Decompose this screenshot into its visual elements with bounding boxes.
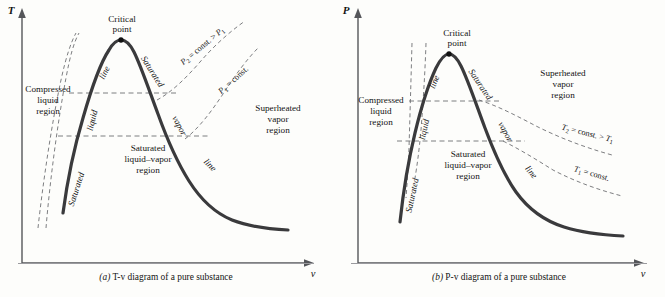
superheated-vapor-region-line2: vapor — [268, 114, 289, 124]
caption-b-index: (b) — [432, 272, 443, 282]
sat-vapor-line-word2-pv: vapor — [496, 120, 515, 144]
compressed-liquid-region-line1-pv: Compressed — [358, 95, 404, 105]
isobar-p2-curve-tv — [157, 21, 245, 100]
panel-pv-diagram: Critical point Compressed liquid region … — [333, 0, 665, 297]
isobar-p2-label-tv: P2 = const. > P1 — [178, 25, 227, 68]
y-axis-label-pv: P — [343, 4, 350, 16]
caption-a-index: (a) — [99, 272, 110, 282]
compressed-liquid-region-line2: liquid — [37, 95, 59, 105]
saturated-liquid-vapor-region-line1: Saturated — [131, 143, 166, 153]
sat-vapor-line-word1-pv: Saturated — [467, 67, 495, 102]
superheated-vapor-region-line1-pv: Superheated — [540, 68, 586, 78]
tv-diagram-svg: Critical point Compressed liquid region … — [0, 0, 332, 297]
compressed-liquid-region-line2-pv: liquid — [370, 106, 392, 116]
superheated-vapor-region-line3: region — [266, 125, 290, 135]
compressed-liquid-region-line3-pv: region — [369, 117, 393, 127]
pv-diagram-svg: Critical point Compressed liquid region … — [333, 0, 665, 297]
y-axis-arrowhead-pv — [354, 8, 362, 18]
panel-tv-diagram: Critical point Compressed liquid region … — [0, 0, 332, 297]
saturated-liquid-vapor-region-line3-pv: region — [456, 171, 480, 181]
caption-a: (a) T-v diagram of a pure substance — [0, 272, 332, 282]
saturation-dome-tv — [63, 40, 288, 230]
isotherm-t1-text: = const. — [580, 166, 610, 183]
saturated-liquid-vapor-region-line2: liquid–vapor — [125, 154, 172, 164]
superheated-vapor-region-line1: Superheated — [255, 103, 301, 113]
compressed-liquid-region-line3: region — [36, 106, 60, 116]
critical-point-label-line2-pv: point — [448, 38, 467, 48]
saturated-liquid-vapor-region-line2-pv: liquid–vapor — [445, 160, 492, 170]
caption-a-text: T-v diagram of a pure substance — [112, 272, 232, 282]
superheated-vapor-region-line3-pv: region — [551, 90, 575, 100]
isobar-p1-text: = const. — [223, 64, 250, 90]
y-axis-label-tv: T — [8, 4, 16, 16]
y-axis-arrowhead-tv — [18, 8, 26, 18]
critical-point-label-line1-pv: Critical — [443, 28, 471, 38]
saturated-liquid-vapor-region-line3: region — [136, 165, 160, 175]
isotherm-t1-label-pv: T1 = const. — [573, 164, 611, 184]
isotherm-t1-curve-pv — [503, 141, 622, 196]
caption-b: (b) P-v diagram of a pure substance — [333, 272, 665, 282]
critical-point-label-line1: Critical — [108, 14, 136, 24]
critical-point-dot-pv — [446, 51, 451, 56]
compressed-liquid-region-line1: Compressed — [25, 84, 71, 94]
sat-vapor-line-word2-tv: vapor — [170, 114, 189, 138]
sat-vapor-line-word3-tv: line — [202, 157, 219, 174]
isotherm-t2-text: = const. > — [568, 125, 607, 143]
caption-rule-a — [18, 263, 314, 264]
saturated-liquid-vapor-region-line1-pv: Saturated — [451, 149, 486, 159]
caption-b-text: P-v diagram of a pure substance — [445, 272, 566, 282]
superheated-vapor-region-line2-pv: vapor — [553, 79, 574, 89]
caption-rule-b — [351, 263, 647, 264]
sat-liquid-line-word3-pv: line — [427, 74, 441, 90]
isobar-p1-label-tv: P1 = const. — [216, 64, 251, 97]
isotherm-t2-sub2: 1 — [609, 138, 614, 146]
figure-container: Critical point Compressed liquid region … — [0, 0, 665, 297]
sat-vapor-line-word3-pv: line — [523, 164, 539, 181]
critical-point-label-line2: point — [113, 24, 132, 34]
critical-point-dot-tv — [118, 37, 123, 42]
sat-liquid-line-word2-tv: liquid — [85, 108, 100, 131]
isotherm-t2-label-pv: T2 = const. > T1 — [561, 123, 615, 146]
